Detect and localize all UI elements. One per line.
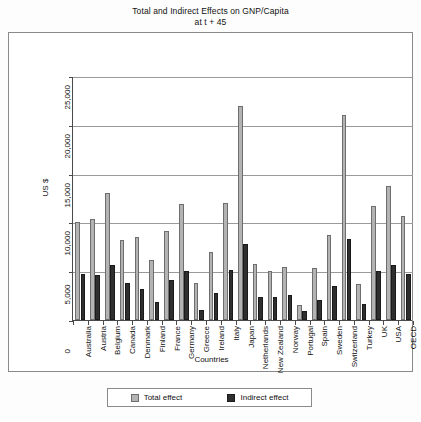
x-tick-mark xyxy=(250,321,251,325)
x-tick-mark xyxy=(398,321,399,325)
bar-indirect-effect xyxy=(362,304,367,320)
bar-total-effect xyxy=(312,268,317,320)
bar-indirect-effect xyxy=(140,289,145,320)
bar-total-effect xyxy=(356,284,361,320)
bar-total-effect xyxy=(105,193,110,320)
x-tick-mark xyxy=(383,321,384,325)
legend-label-indirect: Indirect effect xyxy=(240,393,288,402)
legend-item-indirect: Indirect effect xyxy=(227,393,288,402)
x-tick-mark xyxy=(221,321,222,325)
bar-total-effect xyxy=(268,271,273,320)
y-tick-label: 5,000 xyxy=(63,271,72,305)
x-tick-mark xyxy=(369,321,370,325)
x-tick-mark xyxy=(176,321,177,325)
legend-label-total: Total effect xyxy=(144,393,183,402)
x-tick-mark xyxy=(413,321,414,325)
bar-total-effect xyxy=(371,206,376,320)
gridline xyxy=(73,77,413,78)
bar-total-effect xyxy=(149,260,154,321)
x-tick-mark xyxy=(103,321,104,325)
bar-indirect-effect xyxy=(243,244,248,320)
x-axis-title: Countries xyxy=(9,355,414,364)
legend-swatch-indirect-icon xyxy=(227,394,235,402)
x-tick-mark xyxy=(295,321,296,325)
x-tick-mark xyxy=(310,321,311,325)
x-tick-mark xyxy=(265,321,266,325)
x-tick-mark xyxy=(88,321,89,325)
bar-total-effect xyxy=(297,305,302,320)
bar-indirect-effect xyxy=(376,271,381,320)
x-tick-mark xyxy=(324,321,325,325)
x-tick-mark xyxy=(280,321,281,325)
bar-indirect-effect xyxy=(288,295,293,320)
chart-subtitle: at t + 45 xyxy=(0,17,421,28)
x-tick-mark xyxy=(162,321,163,325)
y-tick-label: 25,000 xyxy=(63,76,72,110)
x-tick-mark xyxy=(191,321,192,325)
bar-indirect-effect xyxy=(406,274,411,320)
bar-total-effect xyxy=(327,235,332,320)
gridline xyxy=(73,175,413,176)
bar-indirect-effect xyxy=(169,280,174,320)
bar-total-effect xyxy=(164,231,169,320)
bar-total-effect xyxy=(253,264,258,320)
legend-item-total: Total effect xyxy=(131,393,183,402)
plot-frame: US $ 05,00010,00015,00020,00025,000 Aust… xyxy=(8,32,413,372)
gridline xyxy=(73,223,413,224)
y-tick-label: 20,000 xyxy=(63,124,72,158)
bar-total-effect xyxy=(120,240,125,320)
y-tick-label: 10,000 xyxy=(63,222,72,256)
x-tick-mark xyxy=(132,321,133,325)
bar-indirect-effect xyxy=(332,286,337,320)
x-tick-mark xyxy=(236,321,237,325)
chart-legend: Total effect Indirect effect xyxy=(107,388,312,407)
bar-indirect-effect xyxy=(81,274,86,320)
x-tick-mark xyxy=(339,321,340,325)
bar-total-effect xyxy=(386,186,391,320)
bar-indirect-effect xyxy=(199,310,204,320)
bar-indirect-effect xyxy=(391,265,396,320)
bar-indirect-effect xyxy=(184,271,189,320)
bar-indirect-effect xyxy=(273,297,278,320)
x-tick-mark xyxy=(354,321,355,325)
bar-total-effect xyxy=(135,237,140,320)
bar-total-effect xyxy=(209,252,214,320)
x-tick-mark xyxy=(73,321,74,325)
bar-indirect-effect xyxy=(155,302,160,320)
bar-total-effect xyxy=(401,216,406,320)
x-tick-mark xyxy=(206,321,207,325)
chart-title: Total and Indirect Effects on GNP/Capita… xyxy=(0,6,421,28)
x-tick-mark xyxy=(147,321,148,325)
bar-indirect-effect xyxy=(214,293,219,320)
bar-indirect-effect xyxy=(229,270,234,320)
bar-total-effect xyxy=(282,267,287,320)
x-tick-mark xyxy=(117,321,118,325)
bar-total-effect xyxy=(194,283,199,320)
bar-total-effect xyxy=(75,222,80,320)
y-tick-label: 0 xyxy=(63,320,72,354)
gridline xyxy=(73,126,413,127)
bar-indirect-effect xyxy=(302,311,307,320)
bar-indirect-effect xyxy=(258,297,263,320)
bar-indirect-effect xyxy=(95,275,100,320)
y-tick-label: 15,000 xyxy=(63,173,72,207)
bar-indirect-effect xyxy=(347,239,352,320)
chart-title-line1: Total and Indirect Effects on GNP/Capita xyxy=(132,6,288,16)
plot-area: 05,00010,00015,00020,00025,000 Australia… xyxy=(72,77,412,321)
bar-total-effect xyxy=(238,106,243,320)
bar-total-effect xyxy=(179,204,184,320)
chart-container: Total and Indirect Effects on GNP/Capita… xyxy=(0,0,421,422)
y-axis-title: US $ xyxy=(41,158,50,218)
bar-total-effect xyxy=(90,219,95,321)
bar-indirect-effect xyxy=(125,283,130,320)
bar-total-effect xyxy=(223,203,228,320)
bar-indirect-effect xyxy=(110,265,115,320)
bar-total-effect xyxy=(342,115,347,320)
legend-swatch-total-icon xyxy=(131,394,139,402)
bar-indirect-effect xyxy=(317,300,322,320)
